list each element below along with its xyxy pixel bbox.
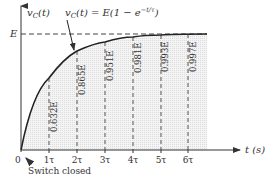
tick-label: 4τ xyxy=(128,155,139,165)
value-label: 0.981E xyxy=(133,42,143,73)
value-label: 0.997E xyxy=(188,41,198,72)
y-axis-label: vC(t) xyxy=(27,7,50,20)
value-label: 0.993E xyxy=(160,41,170,72)
tick-label: 5τ xyxy=(156,155,167,165)
value-label: 0.951E xyxy=(105,50,115,81)
tick-label: 6τ xyxy=(183,155,194,165)
switch-closed-label: Switch closed xyxy=(28,166,91,176)
tick-label: 2τ xyxy=(72,155,83,165)
tick-label: 1τ xyxy=(44,155,55,165)
value-label: 0.632E xyxy=(49,101,59,132)
tick-label: 3τ xyxy=(100,155,111,165)
equation-pointer xyxy=(67,20,74,50)
e-label: E xyxy=(9,28,18,39)
x-axis-label: t (s) xyxy=(245,144,265,155)
charging-curve-chart: vC(t) vC(t) = E(1 − e−t/τ) E 0.632E 0.86… xyxy=(0,0,271,180)
tick-labels: 1τ 2τ 3τ 4τ 5τ 6τ xyxy=(44,155,194,165)
equation-label: vC(t) = E(1 − e−t/τ) xyxy=(65,6,159,20)
value-label: 0.865E xyxy=(77,64,87,95)
tick-zero: 0 xyxy=(15,155,21,165)
switch-pointer-arrow xyxy=(26,158,32,164)
